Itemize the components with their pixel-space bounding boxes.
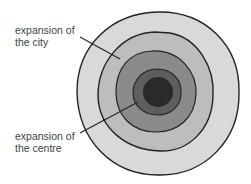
city-label-line1: expansion of [15,24,75,36]
centre-core [143,77,173,107]
centre-label-line2: the centre [15,142,75,154]
centre-label: expansion of the centre [15,130,75,154]
city-label: expansion of the city [15,24,75,48]
city-label-line2: the city [15,36,75,48]
centre-label-line1: expansion of [15,130,75,142]
